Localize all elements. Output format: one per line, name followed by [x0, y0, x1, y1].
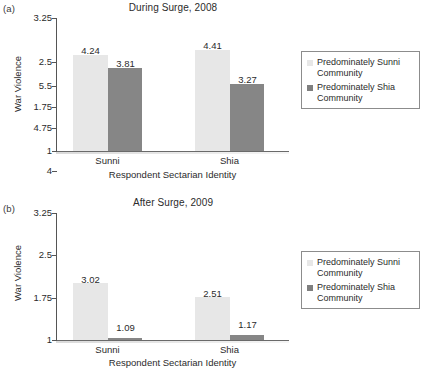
y-axis-title-b: War Violence: [12, 245, 23, 301]
baseline-artifact-a: [56, 152, 289, 154]
bar-value-shia-dark-b: 1.17: [220, 319, 275, 330]
y-axis-title-a: War Violence: [12, 56, 23, 112]
legend-label-shia-a: Predominately Shia Community: [317, 82, 414, 104]
legend-item-shia-a: Predominately Shia Community: [307, 82, 414, 104]
x-category-label-sunni-b: Sunni: [80, 344, 135, 355]
bar-value-shia-light-a: 4.41: [185, 40, 240, 51]
legend-swatch-shia-icon: [307, 285, 313, 291]
x-category-label-sunni-a: Sunni: [80, 155, 135, 166]
bar-value-sunni-dark-b: 1.09: [98, 322, 153, 333]
bar-value-shia-light-b: 2.51: [185, 288, 240, 299]
x-axis-title-b: Respondent Sectarian Identity: [56, 357, 289, 368]
bar-value-sunni-light-b: 3.02: [63, 274, 118, 285]
chart-panel-b: (b) After Surge, 2009 War Violence 1 1.7…: [0, 189, 422, 378]
bar-value-sunni-light-a: 4.24: [63, 45, 118, 56]
legend-swatch-shia-icon: [307, 85, 313, 91]
legend-item-sunni-a: Predominately Sunni Community: [307, 57, 414, 79]
x-category-label-shia-b: Shia: [202, 344, 257, 355]
legend-item-shia-b: Predominately Shia Community: [307, 282, 414, 304]
bar-sunni-light-a: [73, 55, 108, 151]
baseline-artifact-b: [56, 341, 289, 343]
plot-area-a: 1 1.75 2.5 3.25 4 4.75 5.5 4.24 3: [56, 18, 289, 152]
panel-title-b: After Surge, 2009: [58, 197, 288, 208]
y-axis-line-b: [56, 213, 57, 341]
plot-area-b: 1 1.75 2.5 3.25 4 4.75 5.5 3.02 1: [56, 213, 289, 341]
legend-a: Predominately Sunni Community Predominat…: [301, 51, 420, 109]
legend-swatch-sunni-icon: [307, 60, 313, 66]
bar-shia-dark-a: [230, 84, 264, 151]
chart-panel-a: (a) During Surge, 2008 War Violence 1 1.…: [0, 0, 422, 189]
bar-sunni-dark-a: [108, 68, 142, 151]
legend-b: Predominately Sunni Community Predominat…: [301, 251, 420, 309]
bar-value-shia-dark-a: 3.27: [220, 74, 275, 85]
x-category-label-shia-a: Shia: [202, 155, 257, 166]
panel-title-a: During Surge, 2008: [58, 2, 288, 13]
bar-shia-dark-b: [230, 335, 264, 340]
legend-item-sunni-b: Predominately Sunni Community: [307, 257, 414, 279]
x-axis-title-a: Respondent Sectarian Identity: [56, 169, 289, 180]
legend-label-sunni-b: Predominately Sunni Community: [317, 257, 414, 279]
bar-shia-light-a: [195, 50, 230, 151]
bar-sunni-dark-b: [108, 338, 142, 341]
panel-letter-a: (a): [3, 3, 15, 14]
legend-swatch-sunni-icon: [307, 260, 313, 266]
panel-letter-b: (b): [3, 203, 15, 214]
y-axis-line-a: [56, 18, 57, 152]
legend-label-sunni-a: Predominately Sunni Community: [317, 57, 414, 79]
bar-value-sunni-dark-a: 3.81: [98, 58, 153, 69]
legend-label-shia-b: Predominately Shia Community: [317, 282, 414, 304]
